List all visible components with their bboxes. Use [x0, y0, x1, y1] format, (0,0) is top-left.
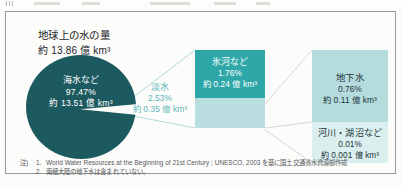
footnote-marker-spacer — [20, 167, 36, 176]
glacier-breakdown-box: 氷河など 1.76% 約 0.24 億 km³ — [195, 50, 265, 128]
figure-frame: 地球上の水の量 約 13.86 億 km³ 海水など 97.47% 約 13.5… — [5, 11, 396, 174]
glacier-label: 氷河など 1.76% 約 0.24 億 km³ — [195, 57, 265, 90]
groundwater-percent: 0.76% — [312, 84, 388, 96]
footnote-row: 2. 南極大陸の地下水は含まれていない。 — [20, 167, 390, 176]
glacier-percent: 1.76% — [195, 68, 265, 79]
freshwater-callout-label: 淡水 2.53% 約 0.35 億 km³ — [129, 82, 191, 115]
seawater-volume: 約 13.51 億 km³ — [30, 98, 132, 110]
freshwater-name: 淡水 — [129, 82, 191, 93]
footnote-marker: 注) — [20, 158, 36, 167]
water-distribution-pie-chart: 海水など 97.47% 約 13.51 億 km³ — [26, 55, 136, 159]
pie-slice-seawater-label: 海水など 97.47% 約 13.51 億 km³ — [30, 75, 132, 110]
seawater-name: 海水など — [30, 75, 132, 87]
footnote-row: 注) 1. World Water Resources at the Begin… — [20, 158, 390, 167]
glacier-volume: 約 0.24 億 km³ — [195, 79, 265, 90]
seawater-percent: 97.47% — [30, 87, 132, 99]
freshwater-percent: 2.53% — [129, 93, 191, 104]
footnote-number: 2. — [36, 167, 46, 176]
rivers-lakes-breakdown-box: 河川・湖沼など 0.01% 約 0.001 億 km³ — [312, 122, 388, 163]
footnote-text: World Water Resources at the Beginning o… — [46, 158, 347, 167]
glacier-fill-lower — [195, 98, 265, 128]
glacier-name: 氷河など — [195, 57, 265, 68]
page-title: 地球上の水の量 — [38, 27, 110, 42]
rivers-percent: 0.01% — [312, 139, 388, 150]
groundwater-volume: 約 0.11 億 km³ — [312, 95, 388, 107]
rivers-lakes-label: 河川・湖沼など 0.01% 約 0.001 億 km³ — [312, 128, 388, 161]
footnotes: 注) 1. World Water Resources at the Begin… — [20, 158, 390, 177]
groundwater-name: 地下水 — [312, 72, 388, 84]
footnote-number: 1. — [36, 158, 46, 167]
scan-artifact-strip — [0, 0, 402, 9]
freshwater-volume: 約 0.35 億 km³ — [129, 104, 191, 115]
groundwater-label: 地下水 0.76% 約 0.11 億 km³ — [312, 72, 388, 107]
footnote-text: 南極大陸の地下水は含まれていない。 — [46, 167, 149, 176]
rivers-name: 河川・湖沼など — [312, 128, 388, 139]
groundwater-breakdown-box: 地下水 0.76% 約 0.11 億 km³ — [312, 50, 388, 122]
